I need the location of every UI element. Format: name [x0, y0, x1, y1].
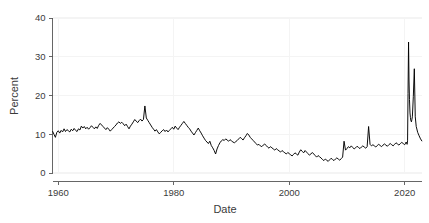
x-axis-title: Date — [213, 203, 236, 215]
x-tick-labels: 1960198020002020 — [48, 187, 416, 198]
y-axis — [49, 18, 53, 173]
chart-container: 010203040 1960198020002020 Percent Date — [0, 0, 429, 223]
y-tick-label: 20 — [35, 90, 46, 101]
x-tick-marks — [58, 182, 404, 186]
y-tick-label: 10 — [35, 129, 46, 140]
series-line-personal-saving-rate — [53, 42, 423, 161]
gridlines — [53, 18, 423, 173]
y-axis-title: Percent — [8, 77, 20, 115]
x-tick-label: 1980 — [163, 187, 184, 198]
y-tick-labels: 010203040 — [35, 12, 46, 178]
x-tick-label: 2000 — [279, 187, 300, 198]
x-axis — [53, 182, 423, 186]
y-tick-label: 0 — [40, 167, 45, 178]
y-tick-marks — [49, 18, 53, 173]
y-tick-label: 30 — [35, 51, 46, 62]
line-chart: 010203040 1960198020002020 Percent Date — [0, 0, 429, 223]
x-tick-label: 2020 — [394, 187, 415, 198]
x-tick-label: 1960 — [48, 187, 69, 198]
y-tick-label: 40 — [35, 12, 46, 23]
